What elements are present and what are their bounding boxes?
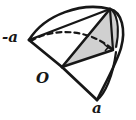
vertex-label-a: a <box>92 101 102 116</box>
vertex-label-negative-a: -a <box>2 30 18 45</box>
edge-origin-to-a <box>62 67 97 100</box>
vertex-label-origin: O <box>36 71 49 86</box>
figure-canvas <box>0 0 136 120</box>
geometry-figure: -a O a <box>0 0 136 120</box>
edge-nega-to-origin <box>29 40 62 67</box>
